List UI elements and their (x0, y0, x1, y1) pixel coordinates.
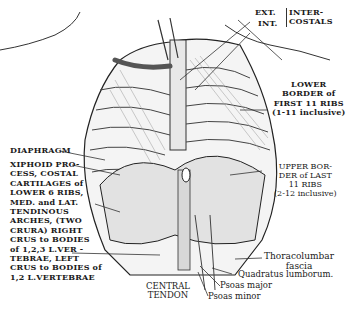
label-internal-intercostals: INT. (258, 19, 278, 28)
label-external-intercostals: EXT. (255, 8, 276, 17)
label-central-tendon: CENTRAL TENDON (146, 282, 190, 300)
anatomy-illustration: EXT. INT. INTER- COSTALS LOWER BORDER of… (0, 0, 358, 310)
label-diaphragm: DIAPHRAGM (10, 146, 71, 155)
label-diaphragm-origins: XIPHOID PRO- CESS, COSTAL CARTILAGES of … (10, 160, 102, 282)
label-quadratus-lumborum: Quadratus lumborum. (238, 270, 333, 279)
label-upper-border-last-11-ribs: UPPER BOR- DER of LAST 11 RIBS (2-12 inc… (274, 162, 337, 198)
label-intercostals: INTER- COSTALS (286, 8, 333, 27)
label-psoas-major: Psoas major (220, 281, 272, 290)
label-lower-border-first-11-ribs: LOWER BORDER of FIRST 11 RIBS (1-11 incl… (272, 80, 345, 118)
label-psoas-minor: Psoas minor (208, 292, 261, 301)
label-thoracolumbar-fascia: Thoracolumbar fascia (264, 251, 334, 271)
